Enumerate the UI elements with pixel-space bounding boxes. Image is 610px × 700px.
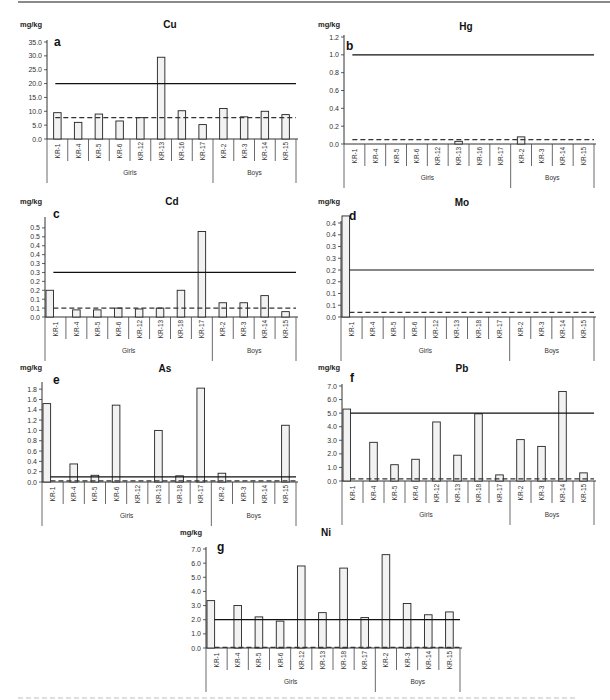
x-category-label: KR-17 xyxy=(496,483,503,502)
y-tick-label: 35.0 xyxy=(28,39,42,46)
chart-cu: mg/kgCua0.05.010.015.020.025.030.035.0KR… xyxy=(20,19,298,183)
x-category-label: KR-17 xyxy=(496,319,503,338)
x-category-label: KR-18 xyxy=(475,483,482,502)
chart-hg: mg/kgHgb0.00.20.40.60.81.01.2KR-1KR-4KR-… xyxy=(318,20,596,188)
panel-label: g xyxy=(217,540,224,554)
x-category-label: KR-5 xyxy=(391,485,398,500)
bar xyxy=(361,618,369,648)
y-tick-label: 7.0 xyxy=(191,546,201,553)
y-tick-label: 0.8 xyxy=(329,69,339,76)
x-category-label: KR-5 xyxy=(390,321,397,336)
x-category-label: KR-14 xyxy=(559,146,566,165)
x-category-label: KR-3 xyxy=(241,143,248,158)
y-tick-label: 1.2 xyxy=(27,417,37,424)
x-category-label: KR-15 xyxy=(580,483,587,502)
x-category-label: KR-14 xyxy=(559,319,566,338)
y-tick-label: 4.0 xyxy=(191,588,201,595)
x-category-label: KR-4 xyxy=(75,143,82,158)
chart-title: Ni xyxy=(321,527,331,538)
x-category-label: KR-4 xyxy=(70,486,77,501)
x-category-label: KR-3 xyxy=(404,652,411,667)
bar xyxy=(157,57,164,139)
x-category-label: KR-18 xyxy=(177,319,184,338)
y-tick-label: 0.0 xyxy=(329,141,339,148)
y-tick-label: 1.8 xyxy=(27,386,37,393)
x-category-label: KR-12 xyxy=(134,484,141,503)
x-category-label: KR-13 xyxy=(157,319,164,338)
x-category-label: KR-6 xyxy=(411,321,418,336)
panel-label: a xyxy=(54,35,61,49)
x-category-label: KR-15 xyxy=(282,319,289,338)
bar xyxy=(116,121,123,139)
y-unit-label: mg/kg xyxy=(20,20,43,29)
y-tick-label: 4.0 xyxy=(327,423,337,430)
bar xyxy=(454,455,462,481)
x-category-label: KR-13 xyxy=(158,141,165,160)
y-tick-label: 25.0 xyxy=(28,66,42,73)
x-category-label: KR-17 xyxy=(197,484,204,503)
x-category-label: KR-17 xyxy=(199,141,206,160)
x-category-label: KR-14 xyxy=(261,141,268,160)
bar xyxy=(382,555,390,648)
bar xyxy=(135,309,143,317)
y-tick-label: 1.0 xyxy=(329,51,339,58)
y-tick-label: 0.0 xyxy=(32,136,42,143)
bar xyxy=(446,612,454,648)
group-label-boys: Boys xyxy=(246,512,261,520)
x-category-label: KR-15 xyxy=(580,319,587,338)
bar xyxy=(343,409,351,481)
y-tick-label: 0.4 xyxy=(30,242,40,249)
y-tick-label: 0.1 xyxy=(326,302,336,309)
bar xyxy=(282,425,290,482)
group-label-girls: Girls xyxy=(120,512,134,519)
x-category-label: KR-6 xyxy=(412,485,419,500)
group-label-boys: Boys xyxy=(545,174,560,182)
y-tick-label: 0.4 xyxy=(27,458,37,465)
figure-panels: mg/kgCua0.05.010.015.020.025.030.035.0KR… xyxy=(0,0,610,700)
x-category-label: KR-2 xyxy=(382,652,389,667)
y-unit-label: mg/kg xyxy=(318,363,341,372)
x-category-label: KR-16 xyxy=(178,141,185,160)
x-category-label: KR-2 xyxy=(517,321,524,336)
x-category-label: KR-5 xyxy=(393,148,400,163)
bar xyxy=(207,601,215,648)
group-label-girls: Girls xyxy=(421,174,435,181)
y-tick-label: 0.0 xyxy=(191,645,201,652)
bar xyxy=(240,117,247,139)
bar xyxy=(73,310,81,317)
y-tick-label: 2.0 xyxy=(327,450,337,457)
y-tick-label: 6.0 xyxy=(327,396,337,403)
x-category-label: KR-13 xyxy=(453,319,460,338)
x-category-label: KR-2 xyxy=(517,485,524,500)
x-category-label: KR-4 xyxy=(369,321,376,336)
x-category-label: KR-14 xyxy=(559,483,566,502)
y-tick-label: 0.8 xyxy=(27,437,37,444)
y-tick-label: 6.0 xyxy=(191,560,201,567)
bar xyxy=(455,141,463,144)
y-tick-label: 1.0 xyxy=(327,464,337,471)
bar xyxy=(403,603,411,648)
bar xyxy=(199,125,206,139)
x-category-label: KR-12 xyxy=(298,650,305,669)
x-category-label: KR-2 xyxy=(518,148,525,163)
x-category-label: KR-3 xyxy=(538,148,545,163)
y-unit-label: mg/kg xyxy=(20,197,43,206)
y-tick-label: 30.0 xyxy=(28,52,42,59)
panel-label: e xyxy=(53,373,60,387)
x-category-label: KR-12 xyxy=(433,483,440,502)
bar xyxy=(340,568,348,648)
bar xyxy=(74,122,81,139)
y-tick-label: 20.0 xyxy=(28,80,42,87)
chart-title: Cu xyxy=(163,19,176,30)
group-label-boys: Boys xyxy=(247,169,262,177)
x-category-label: KR-6 xyxy=(116,143,123,158)
x-category-label: KR-5 xyxy=(91,486,98,501)
x-category-label: KR-6 xyxy=(115,321,122,336)
x-category-label: KR-1 xyxy=(349,485,356,500)
bar xyxy=(580,473,588,481)
x-category-label: KR-6 xyxy=(113,486,120,501)
chart-cd: mg/kgCdc0.00.10.10.20.20.30.30.40.40.50.… xyxy=(20,196,298,361)
y-tick-label: 5.0 xyxy=(327,410,337,417)
x-category-label: KR-18 xyxy=(340,650,347,669)
x-category-label: KR-14 xyxy=(261,319,268,338)
